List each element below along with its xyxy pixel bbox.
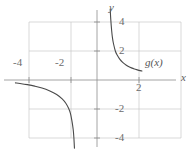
x-tick-label-minus2: -2 bbox=[55, 57, 64, 68]
x-axis-label: x bbox=[181, 72, 186, 83]
plot-canvas bbox=[0, 0, 195, 150]
x-tick-label-minus4: -4 bbox=[13, 57, 22, 68]
curve-branch-right bbox=[110, 9, 142, 71]
function-graph-figure: -4 -2 4 2 -2 -4 2 y x g(x) bbox=[0, 0, 195, 150]
y-tick-label-2: 2 bbox=[119, 45, 125, 56]
y-tick-label-4: 4 bbox=[119, 16, 125, 27]
y-tick-label-minus4: -4 bbox=[115, 132, 124, 143]
x-tick-label-2: 2 bbox=[136, 82, 142, 93]
y-axis-label: y bbox=[109, 2, 114, 13]
curve-label-g: g(x) bbox=[145, 57, 163, 68]
y-tick-label-minus2: -2 bbox=[115, 103, 124, 114]
curve-branch-left bbox=[15, 83, 74, 148]
axes bbox=[4, 10, 176, 147]
